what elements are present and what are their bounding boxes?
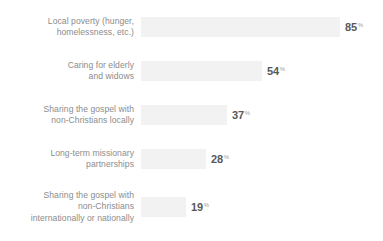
value-label: 28%: [211, 154, 229, 165]
category-label: Caring for elderly and widows: [0, 60, 134, 83]
category-label: Sharing the gospel with non-Christians i…: [0, 190, 134, 224]
chart-row: Long-term missionary partnerships 28%: [0, 146, 383, 172]
value-label: 54%: [267, 66, 285, 77]
value-bar: [141, 105, 227, 125]
bar-track: 54%: [134, 61, 383, 81]
value-number: 37: [232, 110, 244, 121]
value-number: 85: [345, 22, 357, 33]
value-number: 28: [211, 154, 223, 165]
category-label: Local poverty (hunger, homelessness, etc…: [0, 16, 134, 39]
chart-row: Local poverty (hunger, homelessness, etc…: [0, 14, 383, 40]
bar-track: 28%: [134, 149, 383, 169]
horizontal-bar-chart: Local poverty (hunger, homelessness, etc…: [0, 0, 383, 241]
value-label: 37%: [232, 110, 250, 121]
value-label: 19%: [191, 202, 209, 213]
category-label: Long-term missionary partnerships: [0, 148, 134, 171]
category-label: Sharing the gospel with non-Christians l…: [0, 104, 134, 127]
percent-sign: %: [280, 66, 285, 72]
chart-row: Sharing the gospel with non-Christians i…: [0, 190, 383, 224]
chart-row: Caring for elderly and widows 54%: [0, 58, 383, 84]
value-number: 19: [191, 202, 203, 213]
value-bar: [141, 61, 262, 81]
value-bar: [141, 197, 186, 217]
percent-sign: %: [245, 110, 250, 116]
bar-track: 19%: [134, 197, 383, 217]
percent-sign: %: [224, 154, 229, 160]
bar-track: 85%: [134, 17, 383, 37]
value-number: 54: [267, 66, 279, 77]
value-bar: [141, 149, 206, 169]
value-bar: [141, 17, 340, 37]
chart-row: Sharing the gospel with non-Christians l…: [0, 102, 383, 128]
percent-sign: %: [204, 202, 209, 208]
value-label: 85%: [345, 22, 363, 33]
percent-sign: %: [358, 22, 363, 28]
bar-track: 37%: [134, 105, 383, 125]
